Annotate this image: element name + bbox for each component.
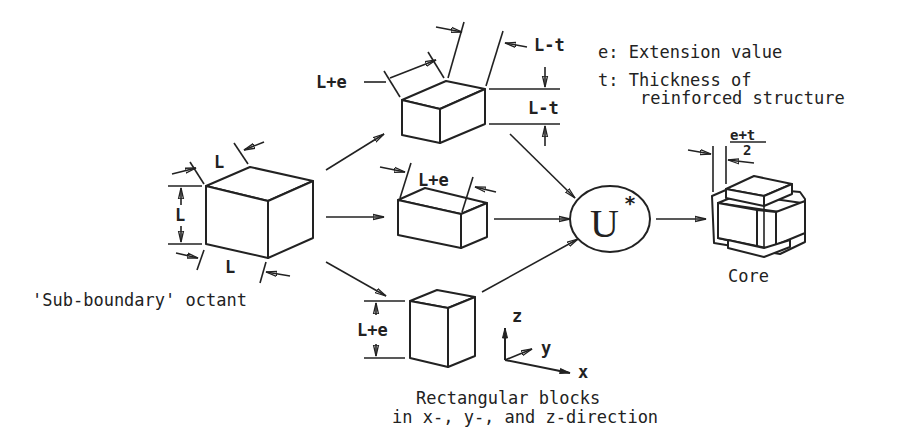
legend-t: t: Thickness of — [598, 70, 752, 90]
core-dim-numerator: e+t — [730, 127, 755, 143]
arrow-octant-to-x-block — [326, 134, 384, 170]
axis-z-label: z — [512, 306, 522, 326]
x-block-dim-top-right: L-t — [534, 35, 565, 55]
arrow-octant-to-z-block — [326, 262, 386, 296]
y-direction-block: L+e — [380, 163, 496, 248]
xyz-axes: z y x — [505, 306, 588, 382]
octant-dim-top: L — [214, 152, 224, 172]
octant-label: 'Sub-boundary' octant — [32, 290, 247, 310]
x-block-dim-right: L-t — [528, 98, 559, 118]
axis-y-label: y — [541, 338, 551, 358]
y-block-dim-length: L+e — [418, 170, 449, 190]
arrow-z-block-to-union — [482, 239, 578, 292]
octant-core-construction-diagram: e: Extension value t: Thickness of reinf… — [0, 0, 910, 447]
x-direction-block: L+e L-t L-t — [316, 22, 565, 146]
octant-dim-bottom: L — [225, 257, 235, 277]
z-direction-block: L+e — [357, 290, 475, 367]
axis-x-label: x — [578, 362, 588, 382]
arrow-x-block-to-union — [510, 134, 575, 198]
blocks-caption-line2: in x-, y-, and z-direction — [392, 407, 658, 427]
core-dim-denominator: 2 — [743, 142, 751, 158]
z-block-dim-length: L+e — [357, 320, 388, 340]
legend-e: e: Extension value — [598, 42, 782, 62]
octant-dim-left: L — [175, 205, 185, 225]
union-symbol: U — [590, 201, 619, 246]
legend-t-continued: reinforced structure — [640, 88, 845, 108]
core-label: Core — [728, 266, 769, 286]
octant-cube: L L L 'Sub-boundary' octant — [32, 142, 313, 310]
union-superscript: * — [624, 191, 636, 215]
legend: e: Extension value t: Thickness of reinf… — [598, 42, 845, 108]
blocks-caption-line1: Rectangular blocks — [416, 388, 600, 408]
core-shape: e+t 2 Core — [688, 127, 805, 286]
union-operator: U * — [570, 186, 650, 252]
x-block-dim-length: L+e — [316, 72, 347, 92]
